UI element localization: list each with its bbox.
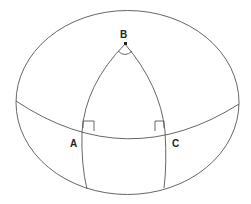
spherical-triangle-diagram: B A C xyxy=(0,0,251,204)
label-c: C xyxy=(172,138,179,149)
label-b: B xyxy=(120,29,127,40)
label-a: A xyxy=(70,138,77,149)
angle-arc-b xyxy=(118,51,132,55)
right-angle-marker-a xyxy=(83,121,94,131)
point-b-marker xyxy=(124,42,127,45)
meridian-right xyxy=(125,44,166,188)
right-angle-marker-c xyxy=(155,121,164,131)
equator-line xyxy=(16,101,239,139)
meridian-left xyxy=(82,44,125,189)
sphere-outline xyxy=(16,11,239,195)
